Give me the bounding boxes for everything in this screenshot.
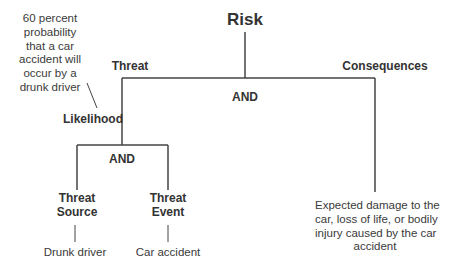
threat-source-node: Threat Source — [52, 191, 102, 220]
sub-and-gate: AND — [102, 152, 142, 166]
threat-event-example: Car accident — [128, 246, 208, 260]
likelihood-note-line: occur by a — [12, 67, 88, 81]
threat-event-line2: Event — [143, 205, 193, 219]
consequences-note-line: car, loss of life, or bodily — [315, 213, 435, 227]
consequences-note: Expected damage to the car, loss of life… — [315, 199, 435, 254]
likelihood-note: 60 percent probability that a car accide… — [12, 12, 88, 95]
threat-source-line2: Source — [52, 205, 102, 219]
threat-source-line1: Threat — [52, 191, 102, 205]
risk-label: Risk — [220, 10, 270, 30]
consequences-note-line: injury caused by the car — [315, 227, 435, 241]
consequences-note-line: Expected damage to the — [315, 199, 435, 213]
likelihood-note-line: probability — [12, 26, 88, 40]
threat-label: Threat — [105, 59, 155, 73]
consequences-note-line: accident — [315, 240, 435, 254]
threat-source-example: Drunk driver — [35, 246, 115, 260]
likelihood-note-line: accident will — [12, 53, 88, 67]
likelihood-note-line: 60 percent — [12, 12, 88, 26]
threat-event-line1: Threat — [143, 191, 193, 205]
likelihood-label: Likelihood — [58, 112, 128, 126]
consequences-label: Consequences — [330, 59, 440, 73]
likelihood-note-line: drunk driver — [12, 81, 88, 95]
top-and-gate: AND — [225, 90, 265, 104]
likelihood-note-line: that a car — [12, 40, 88, 54]
threat-event-node: Threat Event — [143, 191, 193, 220]
